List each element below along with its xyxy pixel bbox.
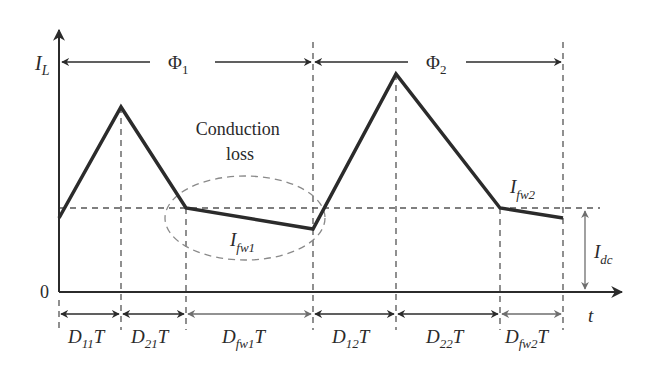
phi2-label: Φ2 — [426, 52, 446, 77]
interval-label-d21: D21T — [130, 326, 170, 351]
interval-label-d22: D22T — [425, 326, 465, 351]
inductor-current-waveform — [59, 74, 563, 229]
x-axis-label: t — [588, 305, 594, 326]
phi1-label: Φ1 — [168, 52, 188, 77]
ifw1-label: Ifw1 — [229, 229, 255, 255]
vertical-guides — [59, 42, 563, 330]
origin-label: 0 — [40, 282, 49, 302]
interval-label-d12: D12T — [331, 326, 371, 351]
y-axis-label: IL — [34, 52, 50, 78]
interval-label-dfw1: Dfw1T — [221, 326, 267, 351]
current-waveform-diagram: IL 0 t Φ1 Φ2 Conduction loss Ifw1 Ifw2 I… — [0, 0, 663, 373]
conduction-loss-label: Conduction loss — [196, 119, 285, 164]
interval-label-d11: D11T — [67, 326, 106, 351]
ifw2-label: Ifw2 — [509, 176, 536, 202]
idc-label: Idc — [593, 241, 613, 267]
interval-label-dfw2: Dfw2T — [504, 326, 550, 351]
